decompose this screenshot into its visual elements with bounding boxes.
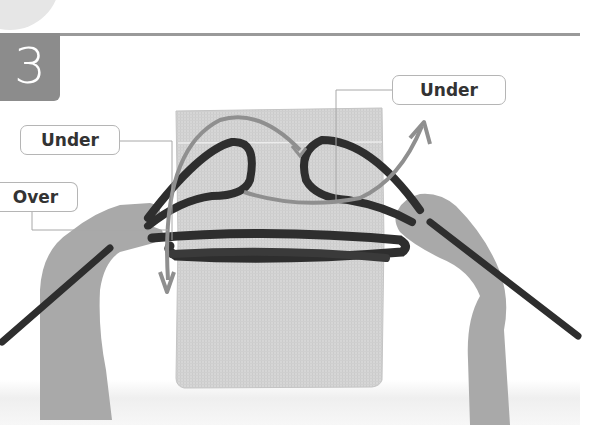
callout-under-right: Under bbox=[392, 75, 506, 105]
callout-over: Over bbox=[0, 182, 78, 212]
callout-under-left: Under bbox=[20, 125, 120, 155]
knot-illustration bbox=[0, 0, 612, 438]
callout-under-left-label: Under bbox=[41, 130, 99, 150]
callout-under-right-label: Under bbox=[420, 80, 478, 100]
callout-over-label: Over bbox=[13, 187, 58, 207]
